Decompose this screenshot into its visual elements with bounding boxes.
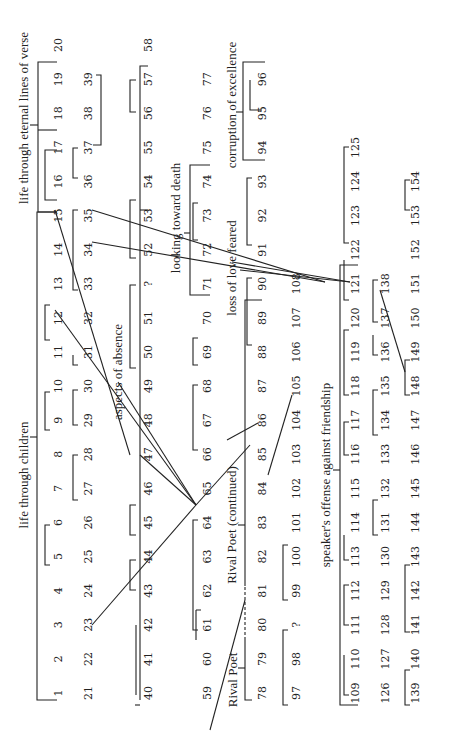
sonnet-number: 95 — [256, 106, 269, 120]
sonnet-number: 135 — [379, 376, 392, 397]
sonnet-number: 6 — [52, 519, 65, 526]
sonnet-number: 140 — [409, 648, 422, 669]
sonnet-number: 70 — [201, 311, 214, 325]
sonnet-number: 141 — [409, 614, 422, 635]
sonnet-number: 130 — [379, 546, 392, 567]
sonnet-number: 101 — [290, 512, 303, 533]
sonnet-number: 126 — [379, 683, 392, 704]
sonnet-number: 56 — [142, 106, 155, 120]
sonnet-number: 74 — [201, 175, 214, 189]
sonnet-number: 103 — [290, 444, 303, 465]
sonnet-number: 80 — [256, 618, 269, 632]
sonnet-number: 94 — [256, 140, 269, 154]
label-corruption-of-excellence: corruption of excellence — [224, 42, 239, 169]
sonnet-number: 41 — [142, 652, 155, 666]
sonnet-number: 1 — [52, 690, 65, 697]
sonnet-number: 148 — [409, 376, 422, 397]
sonnet-number: 58 — [142, 38, 155, 52]
sonnet-number: 76 — [201, 106, 214, 120]
sonnet-number: 91 — [256, 243, 269, 257]
sonnet-number: 20 — [52, 38, 65, 52]
sonnet-number: 24 — [82, 584, 95, 598]
sonnet-number: 68 — [201, 379, 214, 393]
sonnet-number: 48 — [142, 413, 155, 427]
sonnet-number: 11 — [52, 345, 65, 359]
sonnet-number: 131 — [379, 512, 392, 533]
sonnet-number: 93 — [256, 175, 269, 189]
sonnet-number: 151 — [409, 273, 422, 294]
sonnet-number: 50 — [142, 345, 155, 359]
sonnet-number: 154 — [409, 171, 422, 192]
sonnet-number: 12 — [52, 311, 65, 325]
sonnet-number: 62 — [201, 584, 214, 598]
sonnet-number: 137 — [379, 307, 392, 328]
sonnet-number: 109 — [349, 683, 362, 704]
sonnet-number: 147 — [409, 410, 422, 431]
sonnet-number: 71 — [201, 277, 214, 291]
sonnet-number: 66 — [201, 447, 214, 461]
sonnet-number: 84 — [256, 481, 269, 495]
sonnet-number: 149 — [409, 342, 422, 363]
sonnet-number: 53 — [142, 209, 155, 223]
sonnet-number: 44 — [142, 550, 155, 564]
sonnet-number: 82 — [256, 550, 269, 564]
sonnet-number: 143 — [409, 546, 422, 567]
sonnet-number: 49 — [142, 379, 155, 393]
sonnet-number: 21 — [82, 686, 95, 700]
label-speakers-offense: speaker's offense against friendship — [318, 383, 333, 567]
sonnet-number: ? — [290, 622, 303, 628]
sonnet-number: 100 — [290, 546, 303, 567]
sonnet-number: 4 — [52, 587, 65, 594]
sonnet-number: 145 — [409, 478, 422, 499]
sonnet-number: 133 — [379, 444, 392, 465]
label-life-through-children: life through children — [16, 421, 31, 528]
sonnet-number: 9 — [52, 417, 65, 424]
sonnet-number: 127 — [379, 648, 392, 669]
sonnet-number: 104 — [290, 410, 303, 431]
label-loss-of-love-feared: loss of love feared — [224, 220, 239, 316]
sonnet-number: 112 — [349, 580, 362, 601]
sonnet-number: 90 — [256, 277, 269, 291]
sonnet-number: 97 — [290, 686, 303, 700]
sonnet-number: 43 — [142, 584, 155, 598]
sonnet-number: 122 — [349, 239, 362, 260]
label-life-through-verse: life through eternal lines of verse — [16, 32, 31, 204]
sonnet-number: 153 — [409, 205, 422, 226]
sonnet-number: 16 — [52, 175, 65, 189]
sonnet-number: 89 — [256, 311, 269, 325]
sonnet-number: 60 — [201, 652, 214, 666]
sonnet-number: 83 — [256, 516, 269, 530]
sonnet-number: 119 — [349, 342, 362, 363]
sonnet-number: 59 — [201, 686, 214, 700]
sonnet-number: 138 — [379, 273, 392, 294]
sonnet-number: 8 — [52, 451, 65, 458]
sonnet-number: 146 — [409, 444, 422, 465]
sonnet-number: 55 — [142, 140, 155, 154]
sonnet-number: 118 — [349, 376, 362, 397]
sonnet-number: ? — [142, 281, 155, 287]
sonnet-number: 52 — [142, 243, 155, 257]
sonnet-number: 132 — [379, 478, 392, 499]
sonnet-number: 106 — [290, 342, 303, 363]
sonnet-number: 27 — [82, 481, 95, 495]
sonnet-number: 121 — [349, 273, 362, 294]
sonnet-number: 17 — [52, 140, 65, 154]
sonnet-number: 85 — [256, 447, 269, 461]
sonnet-number: 69 — [201, 345, 214, 359]
sonnet-number: 42 — [142, 618, 155, 632]
sonnet-number: 78 — [256, 686, 269, 700]
sonnet-number: 129 — [379, 580, 392, 601]
label-rival-poet: Rival Poet — [225, 652, 240, 707]
sonnet-number: 136 — [379, 342, 392, 363]
sonnet-number: 36 — [82, 175, 95, 189]
sonnet-number: 54 — [142, 175, 155, 189]
label-aspects-of-absence: aspects of absence — [110, 324, 125, 420]
sonnet-number: 77 — [201, 72, 214, 86]
sonnet-number: 88 — [256, 345, 269, 359]
sonnet-number: 110 — [349, 648, 362, 669]
sonnet-number: 25 — [82, 550, 95, 564]
sonnet-number: 13 — [52, 277, 65, 291]
sonnet-number: 73 — [201, 209, 214, 223]
sonnet-number: 51 — [142, 311, 155, 325]
sonnet-number: 5 — [52, 553, 65, 560]
